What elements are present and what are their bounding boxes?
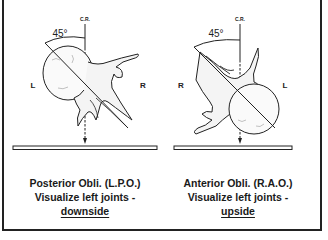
rao-figure [174,24,292,150]
caption-rao-desc: Visualize left joints - [163,190,313,204]
side-label-left-l: L [31,81,36,90]
cr-label-right: C.R. [235,16,246,22]
angle-label-left: 45° [52,28,67,39]
cr-label-left: C.R. [80,16,91,22]
angle-label-right: 45° [208,28,223,39]
caption-rao-title: Anterior Obli. (R.A.O.) [163,176,313,190]
caption-rao: Anterior Obli. (R.A.O.) Visualize left j… [163,176,313,218]
caption-lpo-desc: Visualize left joints - [10,190,160,204]
caption-lpo-emphasis: downside [61,205,109,217]
table-bar-right [174,146,292,150]
side-label-right-l: L [283,81,288,90]
caption-rao-emphasis: upside [221,205,255,217]
caption-lpo: Posterior Obli. (L.P.O.) Visualize left … [10,176,160,218]
table-bar-left [13,146,157,150]
caption-lpo-title: Posterior Obli. (L.P.O.) [10,176,160,190]
side-label-right-r: R [178,81,184,90]
side-label-left-r: R [140,81,146,90]
